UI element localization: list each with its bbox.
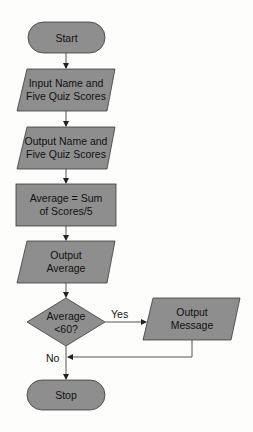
- diamond-shape: [27, 298, 105, 346]
- node-output1: Output Name and Five Quiz Scores: [17, 127, 115, 169]
- node-input-line1: Input Name and: [29, 77, 104, 89]
- node-output3: Output Message: [143, 298, 240, 340]
- node-process-line2: of Scores/5: [39, 205, 92, 217]
- edge-output3-merge: [68, 340, 192, 357]
- node-decision-line2: <60?: [54, 323, 78, 335]
- node-output2: Output Average: [17, 241, 115, 283]
- node-output2-line1: Output: [50, 249, 82, 261]
- node-decision: Average <60?: [27, 298, 105, 346]
- node-output3-line1: Output: [176, 306, 208, 318]
- node-start: Start: [28, 22, 105, 53]
- node-decision-line1: Average: [47, 310, 86, 322]
- node-output1-line2: Five Quiz Scores: [26, 148, 106, 160]
- node-stop: Stop: [27, 380, 105, 410]
- edge-label-yes: Yes: [111, 308, 128, 320]
- node-output1-line1: Output Name and: [25, 135, 108, 147]
- node-input: Input Name and Five Quiz Scores: [17, 69, 115, 111]
- flowchart: Start Input Name and Five Quiz Scores Ou…: [0, 0, 253, 432]
- node-output2-line2: Average: [47, 262, 86, 274]
- node-process-line1: Average = Sum: [30, 192, 103, 204]
- node-output3-line2: Message: [171, 319, 214, 331]
- edge-label-no: No: [46, 352, 60, 364]
- node-start-label: Start: [55, 32, 77, 44]
- node-stop-label: Stop: [55, 389, 77, 401]
- node-process: Average = Sum of Scores/5: [16, 184, 116, 226]
- node-input-line2: Five Quiz Scores: [26, 90, 106, 102]
